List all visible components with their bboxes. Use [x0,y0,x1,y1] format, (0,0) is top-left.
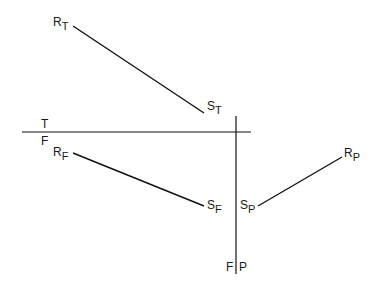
diagram-canvas [0,0,374,286]
label-fold-t: T [41,118,48,130]
line-profile-view [258,157,342,206]
label-s-top: ST [207,100,222,116]
label-fold-f: F [41,135,48,147]
label-r-top: RT [53,16,68,32]
label-r-profile: RP [344,147,360,163]
line-front-view [73,153,204,206]
label-r-front: RF [53,146,68,162]
label-fold-p-right: P [239,261,247,273]
line-top-view [73,26,204,113]
label-fold-f-left: F [226,261,233,273]
label-s-front: SF [207,199,222,215]
label-s-profile: SP [240,199,255,215]
